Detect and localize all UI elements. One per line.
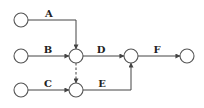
label-f: F: [153, 44, 160, 55]
edge-e: [83, 63, 131, 90]
label-b: B: [44, 44, 52, 55]
node-3: [14, 83, 28, 97]
label-c: C: [44, 78, 52, 89]
label-e: E: [98, 78, 106, 89]
node-6: [124, 49, 138, 63]
label-a: A: [44, 8, 53, 19]
node-2: [14, 49, 28, 63]
label-d: D: [97, 44, 106, 55]
node-7: [180, 49, 194, 63]
node-4: [69, 49, 83, 63]
node-5: [69, 83, 83, 97]
node-1: [14, 13, 28, 27]
network-diagram: A B C D E F: [0, 0, 204, 108]
